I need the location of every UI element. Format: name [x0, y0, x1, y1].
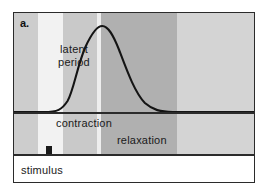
label-stimulus: stimulus: [21, 164, 63, 176]
baseline-rule: [14, 112, 254, 114]
label-relaxation: relaxation: [117, 134, 167, 147]
label-contraction: contraction: [56, 117, 112, 130]
twitch-curve: [14, 13, 254, 154]
figure-root: a. latent period contraction relaxation …: [0, 0, 265, 189]
panel-label: a.: [20, 17, 29, 29]
stimulus-strip: stimulus: [14, 154, 254, 182]
figure-frame: a. latent period contraction relaxation …: [13, 12, 255, 183]
label-latent-period-line2: period: [44, 56, 104, 69]
label-latent-period-line1: latent: [44, 43, 104, 56]
plot-panel: a. latent period contraction relaxation: [14, 13, 254, 154]
label-latent-period: latent period: [44, 43, 104, 69]
stimulus-marker-icon: [46, 146, 52, 154]
